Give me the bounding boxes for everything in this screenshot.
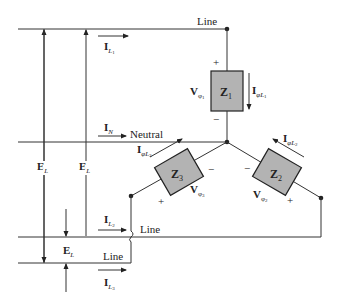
line1-conductor: Line <box>18 15 227 29</box>
z2-minus: − <box>244 162 250 174</box>
iphi1-label: IφL1 <box>252 84 267 99</box>
line3-label: Line <box>103 250 123 262</box>
il1-label: IL1 <box>104 40 115 55</box>
z3-to-line3-wire <box>130 196 134 263</box>
y-load-circuit-diagram: Line Z1 + − Vφ1 IφL1 IL1 Neutral IN Z3 I… <box>0 0 337 308</box>
il2-label: IL2 <box>104 213 115 228</box>
z3-minus: − <box>208 163 214 175</box>
vphi2-label: Vφ2 <box>253 188 268 203</box>
iphi3-label: IφL3 <box>137 143 152 158</box>
in-label: IN <box>104 121 113 136</box>
line2-label: Line <box>140 223 160 235</box>
neutral-label: Neutral <box>130 128 163 140</box>
vphi3-label: Vφ3 <box>190 183 205 198</box>
z3-plus: + <box>158 195 164 207</box>
il3-label: IL3 <box>104 276 115 291</box>
el-label-b: EL <box>79 160 90 175</box>
z2-plus: + <box>287 194 293 206</box>
iphi2-label: IφL2 <box>283 132 298 147</box>
z1-plus: + <box>213 56 219 68</box>
line1-label: Line <box>197 15 217 27</box>
z1-minus: − <box>213 113 219 125</box>
vphi1-label: Vφ1 <box>190 85 205 100</box>
el-label-c: EL <box>63 244 74 259</box>
el-label-a: EL <box>37 160 48 175</box>
